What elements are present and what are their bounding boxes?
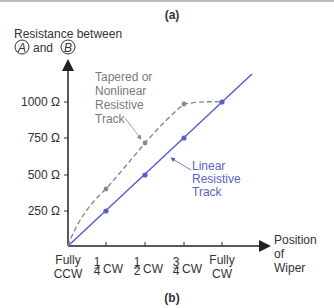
y-axis-label-and: and	[33, 41, 53, 55]
tapered-annotation: Tapered or Nonlinear Resistive Track	[95, 70, 152, 139]
svg-text:4: 4	[94, 264, 101, 278]
panel-label-b: (b)	[164, 291, 179, 305]
svg-text:Track: Track	[95, 112, 126, 126]
tapered-pointer-arrow	[125, 118, 141, 139]
svg-text:Linear: Linear	[192, 159, 225, 173]
linear-point-half	[142, 172, 147, 177]
linear-point-three-quarter	[181, 135, 186, 140]
x-ticks: Fully CCW 1 4 CW 1 2 CW 3 4 CW Fully CW	[54, 242, 235, 281]
svg-text:2: 2	[134, 264, 141, 278]
tapered-point-three-quarter	[182, 102, 187, 107]
svg-text:Position: Position	[274, 233, 317, 247]
x-tick-fully-ccw-line1: Fully	[55, 253, 80, 267]
x-tick-fully-ccw-line2: CCW	[54, 267, 83, 281]
y-tick-750: 750 Ω	[28, 131, 60, 145]
y-tick-250: 250 Ω	[28, 204, 60, 218]
terminal-a-letter: A	[17, 41, 26, 55]
svg-text:CW: CW	[182, 262, 203, 276]
svg-text:CW: CW	[103, 262, 124, 276]
x-tick-fully-cw-line2: CW	[212, 267, 233, 281]
svg-text:of: of	[274, 247, 285, 261]
y-tick-1000: 1000 Ω	[21, 95, 60, 109]
y-ticks: 250 Ω 500 Ω 750 Ω 1000 Ω	[21, 95, 68, 218]
linear-point-full	[219, 99, 224, 104]
tapered-point-quarter	[104, 187, 109, 192]
linear-point-quarter	[103, 208, 108, 213]
y-axis-label-line1: Resistance between	[14, 27, 122, 41]
svg-text:CW: CW	[143, 262, 164, 276]
linear-pointer-arrow	[171, 158, 191, 170]
x-axis-label: Position of Wiper	[274, 233, 317, 275]
svg-text:Wiper: Wiper	[274, 261, 305, 275]
x-tick-fully-cw-line1: Fully	[209, 253, 234, 267]
terminal-b-letter: B	[64, 41, 72, 55]
x-tick-three-quarter-cw: 3 4 CW	[173, 255, 203, 278]
svg-text:Nonlinear: Nonlinear	[95, 84, 146, 98]
svg-text:Resistive: Resistive	[95, 98, 144, 112]
svg-text:Tapered or: Tapered or	[95, 70, 152, 84]
svg-text:Track: Track	[192, 185, 223, 199]
x-tick-quarter-cw: 1 4 CW	[94, 255, 124, 278]
svg-text:4: 4	[173, 264, 180, 278]
panel-label-a: (a)	[165, 8, 180, 22]
svg-text:Resistive: Resistive	[192, 172, 241, 186]
resistance-chart: (a) (b) Resistance between A and B 250 Ω…	[0, 0, 334, 308]
tapered-point-half	[143, 141, 148, 146]
linear-annotation: Linear Resistive Track	[171, 158, 241, 199]
y-tick-500: 500 Ω	[28, 168, 60, 182]
y-axis-label-line2: A and B	[15, 40, 75, 55]
x-tick-half-cw: 1 2 CW	[134, 255, 164, 278]
